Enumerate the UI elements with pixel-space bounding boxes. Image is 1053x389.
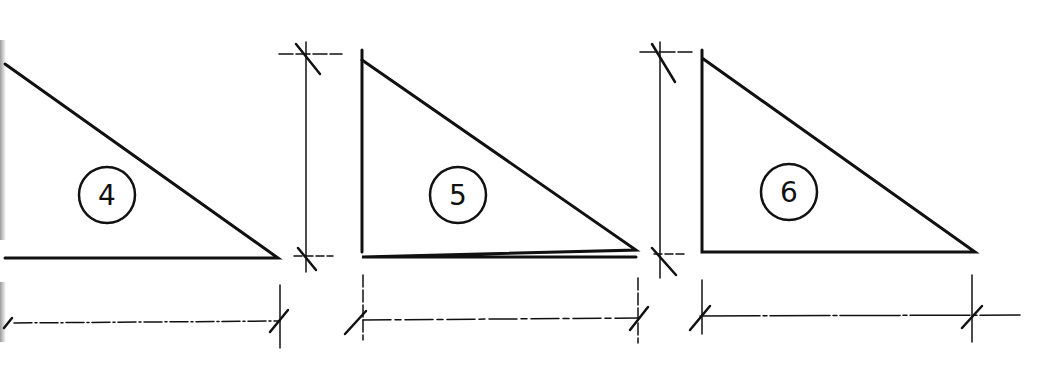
triangle-5: 5 xyxy=(362,50,636,257)
triangle-4-outline xyxy=(5,64,278,258)
triangle-4: 4 xyxy=(5,64,278,258)
triangle-4-label: 4 xyxy=(98,179,116,212)
triangle-dimension-diagram: 4 5 xyxy=(0,0,1053,389)
triangle-5-width-dimension xyxy=(345,275,648,343)
triangle-5-label: 5 xyxy=(449,179,467,212)
triangle-6-width-dimension xyxy=(690,275,1020,342)
triangle-4-width-dimension xyxy=(4,285,288,348)
triangle-5-height-dimension xyxy=(640,42,692,278)
triangle-6-outline xyxy=(702,50,975,252)
triangle-6: 6 xyxy=(702,50,975,252)
triangle-6-label: 6 xyxy=(780,176,798,209)
triangle-4-height-dimension xyxy=(279,42,342,272)
